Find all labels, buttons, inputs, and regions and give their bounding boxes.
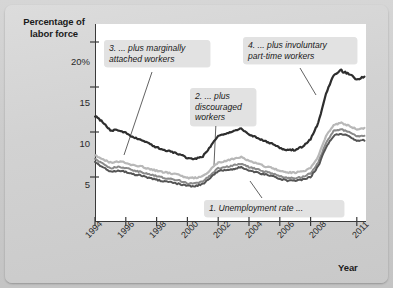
callout-involuntary-part-time: 4. ... plus involuntary part-time worker… <box>243 37 357 64</box>
chart-figure: Percentage of labor force Year 20% 15 10… <box>0 0 393 288</box>
callout-discouraged: 2. ... plus discouraged workers <box>190 88 256 126</box>
callout-marginally-attached: 3. ... plus marginally attached workers <box>104 40 210 67</box>
callout-unemployment-rate: 1. Unemployment rate ... <box>204 200 344 217</box>
x-tick-marks <box>95 217 357 226</box>
